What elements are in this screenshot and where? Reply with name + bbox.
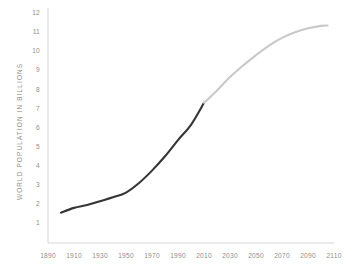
y-tick-label: 12	[24, 9, 40, 16]
y-tick-label: 10	[24, 47, 40, 54]
y-tick-label: 5	[24, 142, 40, 149]
series-line-projection	[204, 25, 328, 102]
world-population-chart: WORLD POPULATION IN BILLIONS 12345678910…	[0, 0, 356, 279]
x-tick-label: 1890	[40, 252, 56, 259]
plot-area	[0, 0, 356, 279]
x-tick-label: 1990	[170, 252, 186, 259]
y-tick-label: 4	[24, 161, 40, 168]
x-tick-label: 1970	[144, 252, 160, 259]
x-tick-label: 1950	[118, 252, 134, 259]
y-tick-label: 11	[24, 28, 40, 35]
y-tick-label: 6	[24, 123, 40, 130]
y-tick-label: 7	[24, 104, 40, 111]
x-tick-label: 2110	[326, 252, 341, 259]
x-tick-label: 2050	[248, 252, 264, 259]
y-tick-label: 9	[24, 66, 40, 73]
x-tick-label: 1910	[66, 252, 82, 259]
x-tick-label: 2090	[300, 252, 316, 259]
series-line-historical	[61, 103, 204, 213]
x-tick-label: 2030	[222, 252, 238, 259]
x-tick-label: 1930	[92, 252, 108, 259]
y-tick-label: 8	[24, 85, 40, 92]
y-tick-label: 3	[24, 181, 40, 188]
y-tick-label: 2	[24, 200, 40, 207]
x-tick-label: 2010	[196, 252, 212, 259]
y-tick-label: 1	[24, 219, 40, 226]
x-tick-label: 2070	[274, 252, 290, 259]
